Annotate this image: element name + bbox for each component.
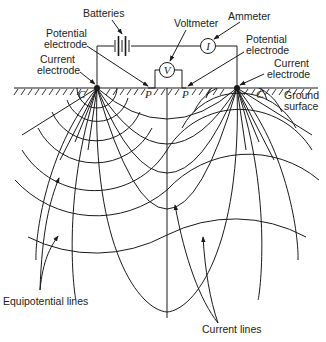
ammeter-label: Ammeter xyxy=(228,10,271,22)
current-electrode-right-dot xyxy=(234,85,240,91)
current-electrode-left-symbol: C xyxy=(78,88,86,100)
potential-electrode-right-label-2: electrode xyxy=(246,44,289,56)
current-electrode-right-symbol: C xyxy=(256,88,264,100)
battery-icon xyxy=(115,36,129,56)
voltmeter-icon: V xyxy=(160,63,175,78)
ground-surface xyxy=(14,88,318,95)
equipotential-lines-left xyxy=(15,88,167,253)
current-electrode-left-label-2: electrode xyxy=(37,64,80,76)
current-electrode-left-dot xyxy=(94,85,100,91)
voltmeter-label: Voltmeter xyxy=(174,17,219,29)
batteries-label: Batteries xyxy=(83,7,124,19)
ammeter-icon: I xyxy=(201,39,216,54)
current-lines xyxy=(22,88,312,318)
field-lines xyxy=(15,68,319,318)
current-electrode-right-label-2: electrode xyxy=(267,68,310,80)
potential-electrode-left-symbol: P xyxy=(144,88,152,100)
resistivity-diagram: I V xyxy=(0,0,326,342)
current-lines-label: Current lines xyxy=(202,323,262,335)
potential-electrode-right-symbol: P xyxy=(181,88,189,100)
potential-electrode-left-label-2: electrode xyxy=(44,38,87,50)
equipotential-lines-label: Equipotential lines xyxy=(3,295,88,307)
ground-surface-label-2: surface xyxy=(284,100,319,112)
